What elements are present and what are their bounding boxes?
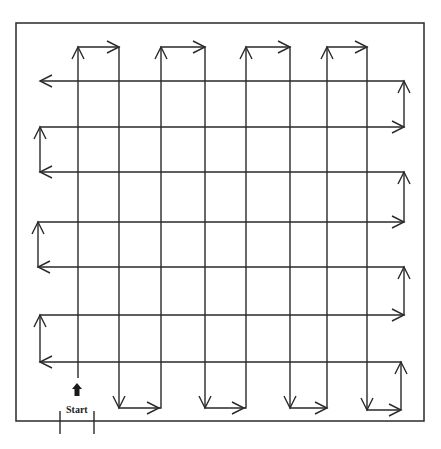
horizontal-sweep-path — [32, 75, 410, 410]
start-arrow-icon — [72, 383, 82, 396]
vertical-sweep-path — [72, 41, 401, 416]
start-label: Start — [66, 404, 88, 415]
coverage-path-diagram — [0, 0, 441, 449]
